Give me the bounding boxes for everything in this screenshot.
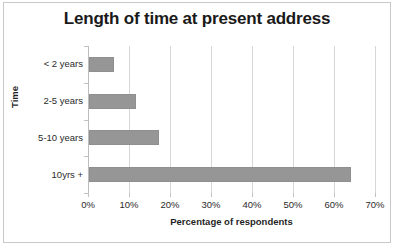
bar-row — [89, 46, 114, 83]
bar-row — [89, 120, 159, 157]
x-axis-tick — [375, 193, 376, 197]
x-axis-tick-label: 60% — [324, 199, 343, 210]
x-axis-tick-label: 0% — [81, 199, 95, 210]
chart-container: Length of time at present address Time <… — [3, 2, 391, 243]
bar[interactable] — [89, 167, 351, 182]
category-label: 2-5 years — [43, 96, 83, 106]
category-label: < 2 years — [44, 59, 83, 69]
bar-row — [89, 83, 136, 120]
bar-row — [89, 156, 351, 193]
x-axis-tick — [88, 193, 89, 197]
x-axis-tick-label: 50% — [283, 199, 302, 210]
x-axis-tick-label: 70% — [365, 199, 384, 210]
category-label: 5-10 years — [38, 133, 83, 143]
x-axis-tick-label: 40% — [242, 199, 261, 210]
y-axis-tick — [84, 156, 88, 157]
x-axis-tick — [129, 193, 130, 197]
x-axis-tick — [211, 193, 212, 197]
x-axis-tick-label: 30% — [201, 199, 220, 210]
bar[interactable] — [89, 94, 136, 109]
gridline — [375, 46, 376, 193]
x-axis-tick — [252, 193, 253, 197]
x-axis-title: Percentage of respondents — [88, 216, 375, 227]
x-axis-tick — [334, 193, 335, 197]
bar[interactable] — [89, 57, 114, 72]
plot-area — [88, 46, 375, 193]
x-axis-tick — [293, 193, 294, 197]
x-axis-tick-label: 20% — [160, 199, 179, 210]
x-axis-ticks — [88, 193, 375, 198]
x-axis-tick-label: 10% — [119, 199, 138, 210]
x-axis-tick — [170, 193, 171, 197]
chart-title: Length of time at present address — [4, 9, 390, 29]
x-axis-tick-labels: 0%10%20%30%40%50%60%70% — [88, 199, 375, 213]
category-label: 10yrs + — [52, 170, 83, 180]
bar[interactable] — [89, 130, 159, 145]
y-axis-tick — [84, 83, 88, 84]
category-labels: < 2 years2-5 years5-10 years10yrs + — [4, 46, 83, 193]
y-axis-tick — [84, 46, 88, 47]
y-axis-tick — [84, 120, 88, 121]
